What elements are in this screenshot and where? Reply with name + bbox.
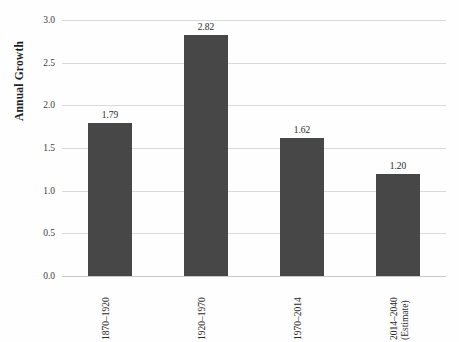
bar-value-label: 1.62: [294, 125, 311, 135]
x-axis-category-line: (Estimate): [401, 282, 411, 340]
bar[interactable]: [376, 174, 420, 276]
x-axis-category-line: 1970–2014: [294, 282, 304, 340]
bar-chart: Annual Growth 0.00.51.01.52.02.53.0 1.79…: [0, 0, 459, 342]
x-axis-category-label: 2014–2040(Estimate): [390, 282, 410, 340]
bar-item[interactable]: 1.62: [280, 20, 324, 276]
y-axis-title: Annual Growth: [13, 26, 31, 136]
y-axis-tick-label: 1.5: [43, 143, 55, 153]
y-axis-tick-label: 0.5: [43, 228, 55, 238]
x-axis-category-line: 2014–2040: [390, 282, 400, 340]
bar-item[interactable]: 1.20: [376, 20, 420, 276]
y-axis-tick-label: 3.0: [43, 15, 55, 25]
y-axis-tick-label: 2.0: [43, 100, 55, 110]
bar-value-label: 2.82: [198, 22, 215, 32]
bar[interactable]: [280, 138, 324, 276]
y-axis-tick-label: 0.0: [43, 271, 55, 281]
bar[interactable]: [88, 123, 132, 276]
y-axis-tick-label: 1.0: [43, 186, 55, 196]
x-axis-category-label: 1970–2014: [294, 282, 304, 340]
x-axis-category-line: 1920–1970: [198, 282, 208, 340]
gridline: [62, 276, 446, 277]
bar-item[interactable]: 1.79: [88, 20, 132, 276]
bar[interactable]: [184, 35, 228, 276]
bar-item[interactable]: 2.82: [184, 20, 228, 276]
bar-value-label: 1.20: [390, 161, 407, 171]
x-axis-category-line: 1870–1920: [102, 282, 112, 340]
y-axis-tick-label: 2.5: [43, 58, 55, 68]
x-axis-category-label: 1920–1970: [198, 282, 208, 340]
bar-value-label: 1.79: [102, 110, 119, 120]
x-axis-category-label: 1870–1920: [102, 282, 112, 340]
plot-area: 0.00.51.01.52.02.53.0 1.792.821.621.20: [62, 20, 446, 276]
